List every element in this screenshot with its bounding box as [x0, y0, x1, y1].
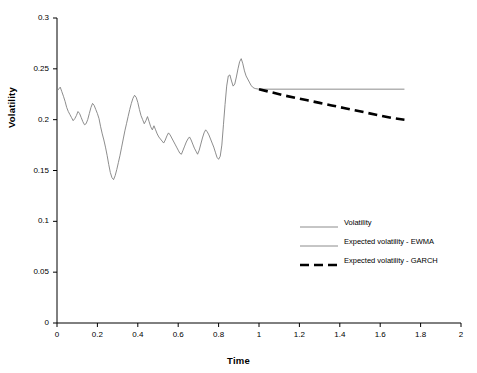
y-tick-label: 0: [21, 318, 49, 327]
x-tick-label: 1.4: [328, 330, 352, 339]
y-tick-label: 0.2: [21, 115, 49, 124]
legend-item: Expected volatility - EWMA: [300, 232, 460, 251]
volatility-chart: Volatility Time 00.20.40.60.811.21.41.61…: [0, 0, 477, 373]
legend-swatch: [300, 256, 338, 266]
x-tick-label: 0.4: [126, 330, 150, 339]
y-tick-label: 0.1: [21, 216, 49, 225]
legend-item: Expected volatility - GARCH: [300, 251, 460, 270]
legend-swatch: [300, 237, 338, 247]
legend-label: Expected volatility - GARCH: [344, 256, 438, 265]
x-tick-label: 0: [45, 330, 69, 339]
series-line: [57, 59, 259, 180]
x-tick-label: 1.6: [368, 330, 392, 339]
legend-label: Volatility: [344, 218, 372, 227]
series-group: [57, 59, 404, 180]
y-axis-title: Volatility: [6, 87, 17, 128]
legend-label: Expected volatility - EWMA: [344, 237, 434, 246]
series-line: [259, 89, 404, 120]
y-tick-label: 0.15: [21, 166, 49, 175]
y-tick-label: 0.05: [21, 267, 49, 276]
plot-area: [0, 0, 477, 373]
x-tick-label: 1.8: [409, 330, 433, 339]
legend-item: Volatility: [300, 213, 460, 232]
chart-legend: VolatilityExpected volatility - EWMAExpe…: [300, 213, 460, 270]
x-tick-label: 0.2: [85, 330, 109, 339]
y-tick-marks: [53, 18, 57, 323]
x-tick-label: 2: [449, 330, 473, 339]
x-tick-label: 1: [247, 330, 271, 339]
x-tick-label: 1.2: [287, 330, 311, 339]
x-tick-label: 0.6: [166, 330, 190, 339]
x-tick-marks: [57, 323, 461, 327]
y-tick-label: 0.25: [21, 64, 49, 73]
x-axis-title: Time: [0, 355, 477, 366]
legend-swatch: [300, 218, 338, 228]
x-tick-label: 0.8: [207, 330, 231, 339]
y-tick-label: 0.3: [21, 13, 49, 22]
